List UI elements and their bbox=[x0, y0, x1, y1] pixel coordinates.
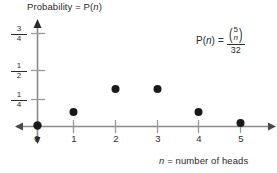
binom-left-paren: ( bbox=[229, 28, 233, 42]
x-tick-label-4: 4 bbox=[191, 134, 207, 144]
data-point-n3 bbox=[154, 85, 162, 93]
x-tick-label-0: 0 bbox=[29, 134, 45, 144]
formula-denominator: 32 bbox=[227, 44, 245, 55]
binom-stack: 5 n bbox=[233, 26, 237, 43]
x-tick-label-1: 1 bbox=[66, 134, 82, 144]
binomial-coefficient: ( 5 n ) bbox=[228, 26, 244, 43]
x-axis-label: n = number of heads bbox=[159, 155, 248, 166]
binom-bottom-value: n bbox=[233, 34, 237, 42]
data-point-n5 bbox=[237, 119, 245, 127]
y-tick-label-one-half-numerator: 1 bbox=[11, 62, 27, 71]
binom-right-paren: ) bbox=[239, 28, 243, 42]
data-point-n4 bbox=[195, 108, 203, 116]
y-tick-label-three-quarters-numerator: 3 bbox=[11, 25, 27, 34]
formula-fraction: ( 5 n ) 32 bbox=[227, 26, 245, 55]
x-tick-label-5: 5 bbox=[233, 134, 249, 144]
y-tick-label-one-quarter-numerator: 1 bbox=[11, 91, 27, 100]
x-axis-right-arrow-icon bbox=[268, 123, 276, 131]
y-axis-up-arrow-icon bbox=[34, 19, 42, 28]
formula-numerator: ( 5 n ) bbox=[227, 26, 245, 44]
x-axis-left-arrow-icon bbox=[15, 123, 23, 131]
formula-annotation: P(n) = ( 5 n ) 32 bbox=[196, 26, 245, 55]
x-tick-label-3: 3 bbox=[150, 134, 166, 144]
data-point-n0 bbox=[33, 121, 41, 129]
y-tick-label-one-half: 1 2 bbox=[11, 62, 27, 80]
x-axis-label-text: = number of heads bbox=[164, 155, 248, 166]
y-tick-label-one-quarter-denominator: 4 bbox=[11, 100, 27, 110]
y-tick-label-one-half-denominator: 2 bbox=[11, 71, 27, 81]
y-tick-label-three-quarters: 3 4 bbox=[11, 25, 27, 43]
x-tick-label-2: 2 bbox=[108, 134, 124, 144]
formula-lhs-suffix: ) bbox=[212, 35, 215, 46]
y-tick-label-one-quarter: 1 4 bbox=[11, 91, 27, 109]
formula-equals-sign: = bbox=[218, 35, 224, 46]
data-point-n2 bbox=[112, 85, 120, 93]
formula-lhs-prefix: P( bbox=[196, 35, 206, 46]
y-tick-label-three-quarters-denominator: 4 bbox=[11, 34, 27, 44]
probability-scatter-figure: Probability = P(n) 3 4 bbox=[0, 0, 277, 173]
formula-left-hand-side: P(n) bbox=[196, 35, 215, 46]
data-point-n1 bbox=[70, 108, 78, 116]
